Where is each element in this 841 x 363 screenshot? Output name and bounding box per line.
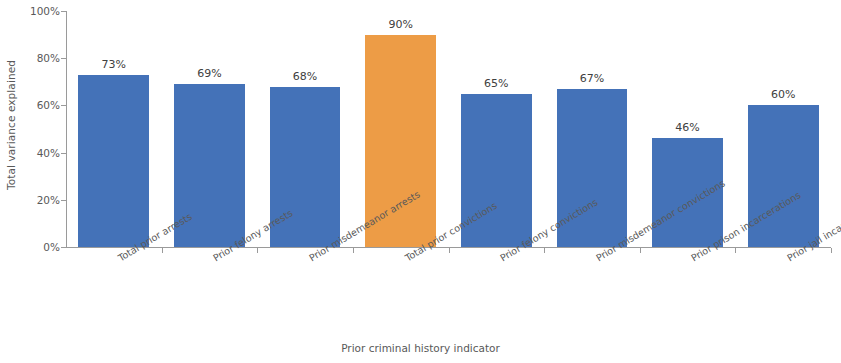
y-axis-title-text: Total variance explained xyxy=(5,60,17,190)
x-axis-tick-mark xyxy=(353,248,354,253)
x-axis-category-label: Prior felony convictions xyxy=(498,254,504,263)
x-axis-title: Prior criminal history indicator xyxy=(0,342,841,354)
bar-chart: Total variance explained 0%20%40%60%80%1… xyxy=(0,0,841,363)
x-axis-category-label: Prior prison incarcerations xyxy=(689,254,695,263)
x-axis-category-label: Total prior arrests xyxy=(116,254,122,263)
x-axis-category-label: Prior jail incarcerations xyxy=(785,254,791,263)
x-axis-category-label: Prior misdemeanor arrests xyxy=(307,254,313,263)
x-axis-tick-mark xyxy=(449,248,450,253)
y-axis-tick-label: 100% xyxy=(30,6,60,16)
bar-value-label: 90% xyxy=(365,18,436,31)
y-axis-tick-label: 60% xyxy=(37,100,60,110)
bar-value-label: 46% xyxy=(652,121,723,134)
bar-value-label: 69% xyxy=(174,67,245,80)
plot-area: 73%69%68%90%65%67%46%60% xyxy=(66,11,831,247)
bar-value-label: 73% xyxy=(78,58,149,71)
y-axis-tick-labels: 0%20%40%60%80%100% xyxy=(20,0,60,363)
bar[interactable] xyxy=(748,105,819,247)
bar-value-label: 68% xyxy=(270,70,341,83)
y-axis-tick-label: 40% xyxy=(37,148,60,158)
bar-value-label: 65% xyxy=(461,77,532,90)
x-axis-tick-mark xyxy=(735,248,736,253)
x-axis-category-label: Prior felony arrests xyxy=(211,254,217,263)
x-axis-category-label: Total prior convictions xyxy=(403,254,409,263)
x-axis-tick-mark xyxy=(831,248,832,253)
x-axis-tick-mark xyxy=(162,248,163,253)
bar-value-label: 67% xyxy=(557,72,628,85)
x-axis-tick-mark xyxy=(544,248,545,253)
x-axis-tick-mark xyxy=(257,248,258,253)
bar[interactable] xyxy=(78,75,149,247)
y-axis-tick-label: 80% xyxy=(37,53,60,63)
y-axis-tick-label: 0% xyxy=(43,242,60,252)
x-axis-category-label: Prior misdemeanor convictions xyxy=(594,254,600,263)
y-axis-tick-label: 20% xyxy=(37,195,60,205)
x-axis-tick-mark xyxy=(640,248,641,253)
y-axis-title: Total variance explained xyxy=(0,0,22,250)
bar-value-label: 60% xyxy=(748,88,819,101)
